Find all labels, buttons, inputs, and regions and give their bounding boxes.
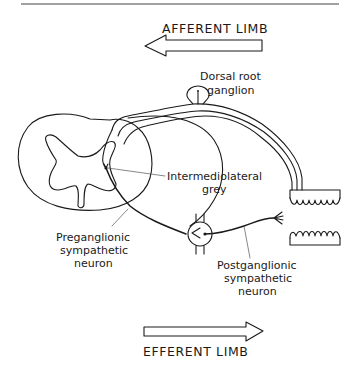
preganglionic-label-3: neuron	[74, 257, 113, 270]
dorsal-root-ganglion	[187, 86, 209, 104]
efferent-arrow	[144, 322, 263, 341]
reflex-arc-diagram: AFFERENT LIMB Dorsal root ganglion Inter…	[0, 0, 348, 371]
dorsal-root-ganglion-label-2: ganglion	[207, 84, 255, 97]
afferent-label: AFFERENT LIMB	[162, 21, 268, 36]
intermediolateral-leader	[108, 168, 165, 176]
spinal-cord-outline	[18, 114, 152, 210]
postganglionic-leader	[244, 226, 250, 258]
dorsal-root-ganglion-label-1: Dorsal root	[200, 70, 261, 83]
intermediolateral-label-2: grey	[202, 183, 227, 196]
postganglionic-label-1: Postganglionic	[217, 259, 297, 272]
efferent-label: EFFERENT LIMB	[143, 344, 249, 359]
preganglionic-leader	[112, 209, 128, 226]
preganglionic-label-1: Preganglionic	[56, 231, 130, 244]
postganglionic-label-3: neuron	[238, 285, 277, 298]
effector-epithelium	[290, 232, 340, 246]
postganglionic-axon	[205, 212, 283, 234]
intermediolateral-label-1: Intermediolateral	[167, 170, 262, 183]
receptor-epithelium	[290, 190, 340, 205]
postganglionic-label-2: sympathetic	[224, 272, 292, 285]
afferent-arrow	[145, 35, 262, 56]
preganglionic-label-2: sympathetic	[60, 244, 128, 257]
